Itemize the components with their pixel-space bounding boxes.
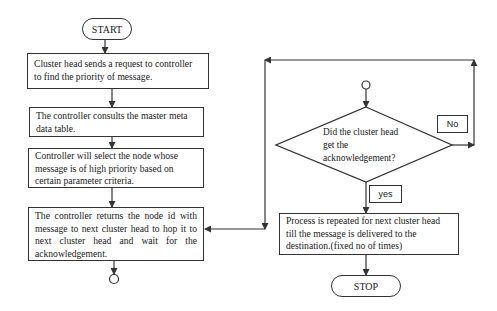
decision-line-3: acknowledgement? — [323, 152, 443, 165]
step-request-text: Cluster head sends a request to controll… — [34, 58, 192, 82]
no-branch-label: No — [437, 115, 468, 133]
decision-line-1: Did the cluster head — [323, 126, 443, 139]
connector-circle-top — [362, 81, 370, 89]
step-consult-text: The controller consults the master meta … — [36, 110, 188, 134]
step-return: The controller returns the node id with … — [28, 207, 204, 261]
step-return-text: The controller returns the node id with … — [35, 210, 197, 259]
step-repeat-text: Process is repeated for next cluster hea… — [286, 215, 440, 251]
stop-terminal: STOP — [331, 275, 401, 297]
step-request: Cluster head sends a request to controll… — [27, 53, 209, 89]
stop-label: STOP — [354, 281, 378, 292]
decision-question: Did the cluster head get the acknowledge… — [323, 126, 443, 166]
step-repeat: Process is repeated for next cluster hea… — [279, 213, 459, 255]
step-select-text: Controller will select the node whose me… — [35, 150, 178, 186]
step-select: Controller will select the node whose me… — [28, 148, 204, 188]
decision-line-2: get the — [323, 139, 443, 152]
step-consult: The controller consults the master meta … — [29, 107, 204, 137]
yes-label-text: yes — [378, 189, 392, 199]
no-label-text: No — [447, 119, 459, 129]
yes-branch-label: yes — [369, 185, 402, 203]
connector-circle-bottom — [110, 275, 119, 284]
start-terminal: START — [82, 18, 132, 40]
start-label: START — [92, 24, 122, 35]
